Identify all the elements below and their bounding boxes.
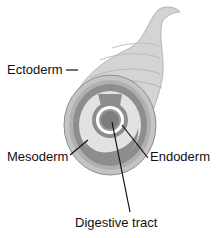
- label-digestive-tract: Digestive tract: [75, 216, 157, 229]
- cross-section: [64, 75, 156, 175]
- label-endoderm: Endoderm: [150, 150, 210, 163]
- label-mesoderm: Mesoderm: [7, 150, 68, 163]
- worm-cross-section-diagram: [0, 0, 224, 238]
- digestive-tract: [101, 111, 119, 129]
- label-ectoderm: Ectoderm: [7, 63, 63, 76]
